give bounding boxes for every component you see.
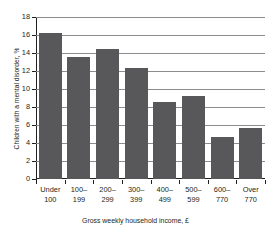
x-axis-tick — [236, 180, 237, 184]
x-axis-category-label-line2: 100 — [36, 195, 65, 205]
x-axis-tick — [208, 180, 209, 184]
x-axis-category-label: 100–199 — [65, 185, 94, 204]
y-axis-tick — [32, 143, 36, 144]
x-axis-category-label-line1: 400– — [157, 185, 173, 194]
x-axis-category-label-line2: 499 — [151, 195, 180, 205]
y-axis-tick — [32, 17, 36, 18]
y-axis-tick-labels: 024681012141618 — [0, 0, 30, 234]
x-axis-category-label-line1: 200– — [99, 185, 115, 194]
bar-chart: Children with a mental disorder, % 02468… — [0, 0, 271, 234]
bar — [211, 137, 234, 179]
x-axis-tick — [265, 180, 266, 184]
x-axis-category-label: 200–299 — [93, 185, 122, 204]
gridline — [36, 17, 265, 18]
x-axis-category-label-line1: Under — [40, 185, 60, 194]
x-axis-category-label: 300–399 — [122, 185, 151, 204]
y-axis-tick — [32, 125, 36, 126]
bar — [153, 102, 176, 179]
x-axis-category-label-line1: Over — [243, 185, 259, 194]
y-axis-tick — [32, 161, 36, 162]
bar — [239, 128, 262, 179]
bar — [96, 49, 119, 180]
y-axis-tick-label: 12 — [0, 67, 30, 74]
x-axis-category-label: Under100 — [36, 185, 65, 204]
y-axis-tick-label: 4 — [0, 139, 30, 146]
y-axis-tick-label: 10 — [0, 85, 30, 92]
x-axis-category-label-line1: 300– — [128, 185, 144, 194]
x-axis-category-label: 400–499 — [151, 185, 180, 204]
y-axis-tick-label: 18 — [0, 13, 30, 20]
y-axis-tick — [32, 35, 36, 36]
x-axis-category-label-line1: 500– — [185, 185, 201, 194]
x-axis-category-label: Over770 — [236, 185, 265, 204]
x-axis-category-label-line2: 770 — [236, 195, 265, 205]
gridline — [36, 53, 265, 54]
y-axis-tick — [32, 71, 36, 72]
x-axis-tick — [93, 180, 94, 184]
x-axis-category-label: 600–770 — [208, 185, 237, 204]
bar — [67, 57, 90, 179]
x-axis-tick — [179, 180, 180, 184]
plot-area — [36, 17, 265, 179]
y-axis-tick — [32, 107, 36, 108]
x-axis-title: Gross weekly household income, £ — [0, 217, 271, 224]
x-axis-category-label-line1: 100– — [71, 185, 87, 194]
x-axis-category-label-line2: 599 — [179, 195, 208, 205]
y-axis-tick-label: 6 — [0, 121, 30, 128]
x-axis-category-label-line2: 299 — [93, 195, 122, 205]
x-axis-tick — [122, 180, 123, 184]
y-axis-tick-label: 14 — [0, 49, 30, 56]
x-axis-tick — [151, 180, 152, 184]
x-axis-category-label-line2: 770 — [208, 195, 237, 205]
x-axis-tick — [36, 180, 37, 184]
y-axis-tick-label: 0 — [0, 175, 30, 182]
y-axis-tick-label: 2 — [0, 157, 30, 164]
bar — [182, 96, 205, 179]
bar — [125, 68, 148, 179]
gridline — [36, 35, 265, 36]
x-axis-category-label: 500–599 — [179, 185, 208, 204]
x-axis-tick — [65, 180, 66, 184]
x-axis-category-label-line2: 399 — [122, 195, 151, 205]
bar — [39, 33, 62, 179]
y-axis-tick-label: 8 — [0, 103, 30, 110]
y-axis-tick-label: 16 — [0, 31, 30, 38]
x-axis-category-label-line1: 600– — [214, 185, 230, 194]
x-axis-category-label-line2: 199 — [65, 195, 94, 205]
y-axis-tick — [32, 53, 36, 54]
y-axis-tick — [32, 89, 36, 90]
